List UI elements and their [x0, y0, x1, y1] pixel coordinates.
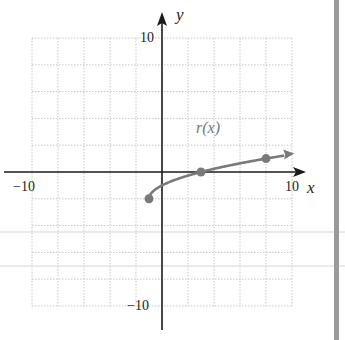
data-point: [262, 154, 271, 163]
y-axis-label: y: [174, 5, 184, 24]
function-graph: 10 −10 −10 10 x y r(x): [0, 0, 345, 340]
y-min-tick-label: −10: [127, 298, 149, 313]
x-min-tick-label: −10: [13, 179, 35, 194]
function-label: r(x): [196, 119, 220, 137]
y-max-tick-label: 10: [140, 30, 154, 45]
function-curve: [145, 150, 295, 204]
x-max-tick-label: 10: [285, 179, 299, 194]
axes: [4, 12, 306, 330]
data-point: [145, 194, 154, 203]
data-point: [197, 168, 206, 177]
scan-lines: [0, 232, 345, 266]
side-bar: [334, 0, 339, 340]
x-axis-label: x: [306, 178, 315, 197]
